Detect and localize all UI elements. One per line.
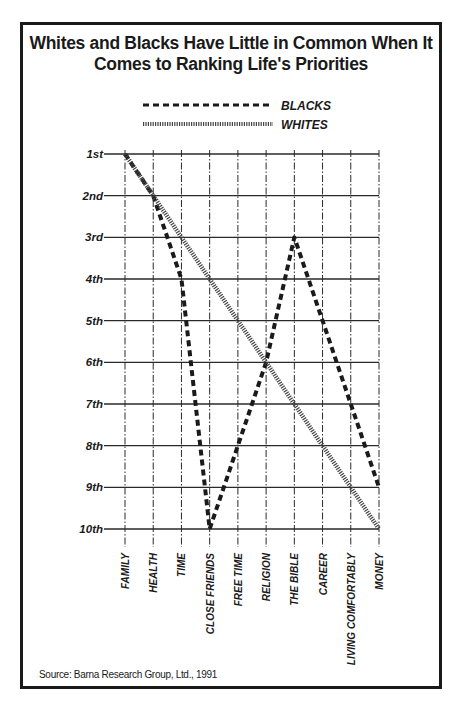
x-tick-label: TIME — [176, 553, 187, 577]
y-tick-label: 9th — [86, 481, 103, 493]
chart-series — [125, 154, 379, 529]
y-tick-label: 2nd — [82, 190, 104, 202]
chart-grid — [104, 150, 379, 547]
x-tick-label: HEALTH — [148, 552, 159, 593]
y-axis: 1st2nd3rd4th5th6th7th8th9th10th — [79, 148, 104, 535]
line-chart: BLACKSWHITES 1st2nd3rd4th5th6th7th8th9th… — [23, 25, 439, 686]
y-tick-label: 8th — [86, 440, 103, 452]
legend-label-whites: WHITES — [281, 118, 328, 132]
x-axis: FAMILYHEALTHTIMECLOSE FRIENDSFREE TIMERE… — [120, 552, 385, 666]
chart-frame: Whites and Blacks Have Little in Common … — [20, 22, 442, 689]
chart-legend: BLACKSWHITES — [143, 99, 331, 132]
y-tick-label: 1st — [86, 148, 104, 160]
series-line-whites — [125, 154, 379, 529]
x-tick-label: CAREER — [318, 552, 329, 595]
legend-label-blacks: BLACKS — [281, 99, 331, 113]
source-note: Source: Barna Research Group, Ltd., 1991 — [39, 669, 217, 680]
y-tick-label: 3rd — [85, 231, 104, 243]
x-tick-label: CLOSE FRIENDS — [205, 553, 216, 634]
y-tick-label: 7th — [86, 398, 103, 410]
y-tick-label: 5th — [86, 315, 103, 327]
x-tick-label: RELIGION — [261, 552, 272, 601]
y-tick-label: 4th — [85, 273, 103, 285]
x-tick-label: FREE TIME — [233, 553, 244, 607]
x-tick-label: THE BIBLE — [289, 553, 300, 606]
y-tick-label: 6th — [86, 356, 103, 368]
x-tick-label: LIVING COMFORTABLY — [346, 552, 357, 666]
x-tick-label: MONEY — [374, 552, 385, 590]
y-tick-label: 10th — [79, 523, 103, 535]
x-tick-label: FAMILY — [120, 552, 131, 589]
